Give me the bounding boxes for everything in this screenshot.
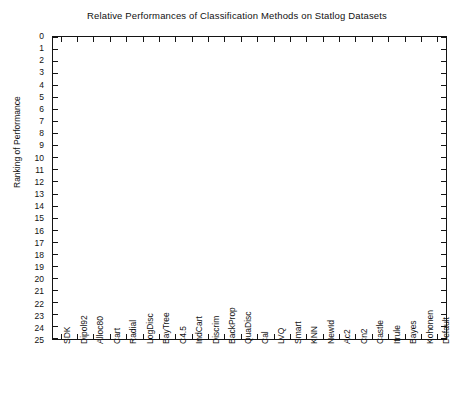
y-axis-tick-label: 19: [35, 263, 44, 272]
y-axis-tick-label: 17: [35, 238, 44, 247]
x-axis-tick-label: BayTree: [162, 312, 171, 344]
y-axis-tick-label: 20: [35, 275, 44, 284]
x-axis-tick-label: Ac2: [343, 329, 352, 344]
y-axis-tick-label: 1: [39, 44, 44, 53]
x-axis-tick-label: SDK: [63, 327, 72, 344]
x-axis-tick-label: Cart: [113, 328, 122, 344]
x-axis-tick-label: BackProp: [228, 307, 237, 344]
x-axis-tick-labels: SDKDipol92Alloc80CartRadialLogDiscBayTre…: [52, 344, 447, 404]
y-axis-tick-label: 15: [35, 214, 44, 223]
plot-canvas: [53, 37, 446, 339]
y-axis-tick-label: 7: [39, 117, 44, 126]
x-axis-tick-label: NewId: [327, 320, 336, 344]
x-axis-tick-label: QuaDisc: [244, 311, 253, 344]
y-axis-tick-label: 24: [35, 324, 44, 333]
chart-figure: Relative Performances of Classification …: [0, 0, 474, 405]
x-axis-tick-label: Itrule: [393, 325, 402, 344]
plot-area: [52, 36, 447, 340]
x-axis-tick-label: Kohonen: [426, 310, 435, 344]
y-axis-tick-label: 2: [39, 56, 44, 65]
y-axis-tick-label: 10: [35, 153, 44, 162]
y-axis-tick-label: 22: [35, 299, 44, 308]
x-axis-tick-label: LogDisc: [146, 313, 155, 344]
y-axis-tick-label: 8: [39, 129, 44, 138]
y-axis-tick-label: 6: [39, 105, 44, 114]
y-axis-tick-label: 14: [35, 202, 44, 211]
x-axis-tick-label: Radial: [129, 320, 138, 344]
y-axis-tick-label: 13: [35, 190, 44, 199]
x-axis-tick-label: Castle: [376, 320, 385, 344]
chart-title: Relative Performances of Classification …: [0, 10, 474, 21]
x-axis-tick-label: Discrim: [212, 316, 221, 344]
x-axis-tick-label: KNN: [310, 326, 319, 344]
y-axis-tick-label: 11: [35, 166, 44, 175]
y-axis-tick-label: 12: [35, 178, 44, 187]
x-axis-tick-label: IndCart: [195, 316, 204, 344]
x-axis-tick-label: Default: [442, 317, 451, 344]
x-axis-tick-label: Cal: [261, 331, 270, 344]
y-axis-tick-labels: 0123456789101112131415161718192021222324…: [0, 36, 48, 340]
y-axis-tick-label: 0: [39, 32, 44, 41]
x-axis-tick-label: Smart: [294, 321, 303, 344]
x-axis-tick-label: Dipol92: [80, 315, 89, 344]
x-axis-tick-label: Bayes: [409, 320, 418, 344]
x-axis-tick-label: C4.5: [179, 326, 188, 344]
x-axis-tick-label: Cn2: [360, 328, 369, 344]
y-axis-tick-label: 4: [39, 80, 44, 89]
y-axis-tick-label: 25: [35, 336, 44, 345]
y-axis-tick-label: 18: [35, 251, 44, 260]
y-axis-tick-label: 9: [39, 141, 44, 150]
x-axis-tick-label: Alloc80: [96, 316, 105, 344]
y-axis-tick-label: 5: [39, 93, 44, 102]
y-axis-tick-label: 3: [39, 68, 44, 77]
y-axis-tick-label: 21: [35, 287, 44, 296]
x-axis-tick-label: LVQ: [277, 328, 286, 344]
y-axis-tick-label: 23: [35, 311, 44, 320]
y-axis-tick-label: 16: [35, 226, 44, 235]
